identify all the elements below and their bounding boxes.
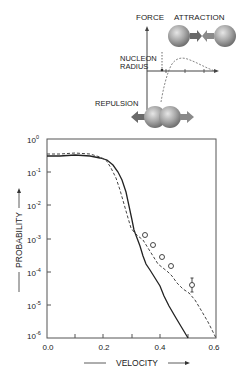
repulsion-label: REPULSION	[95, 99, 138, 108]
dashed-curve	[47, 153, 216, 338]
svg-text:0.4: 0.4	[154, 343, 166, 352]
force-label: FORCE	[136, 13, 164, 22]
figure: FORCE ATTRACTION NUCLEON RADIUS REPULSIO…	[0, 0, 247, 382]
attraction-label: ATTRACTION	[174, 13, 225, 22]
x-ticks	[75, 334, 188, 338]
x-axis-label: VELOCITY	[116, 358, 158, 368]
nucleon-sphere	[168, 25, 190, 47]
arrow-right-icon	[180, 111, 194, 123]
y-ticks	[47, 172, 51, 305]
svg-text:10-6: 10-6	[27, 330, 41, 341]
y-axis-label-group: PROBABILITY	[14, 188, 24, 292]
force-inset: FORCE ATTRACTION NUCLEON RADIUS REPULSIO…	[95, 13, 236, 128]
radius-label: RADIUS	[120, 62, 148, 71]
probability-chart: 100 10-1 10-2 10-3 10-4 10-5 10-6 0.0 0.…	[14, 134, 220, 368]
y-axis-label: PROBABILITY	[14, 212, 24, 268]
svg-text:10-5: 10-5	[27, 300, 41, 311]
arrow-right-icon	[190, 30, 202, 42]
svg-text:0.2: 0.2	[98, 343, 110, 352]
force-curve	[161, 58, 215, 102]
svg-text:100: 100	[27, 134, 39, 145]
arrow-up-icon	[17, 188, 21, 193]
distance-axis-arrow-icon	[214, 69, 219, 73]
y-tick-labels: 100 10-1 10-2 10-3 10-4 10-5 10-6	[27, 134, 41, 341]
svg-text:10-3: 10-3	[27, 234, 41, 245]
svg-text:0.6: 0.6	[208, 343, 220, 352]
arrow-left-icon	[131, 111, 145, 123]
arrow-left-icon	[202, 30, 214, 42]
data-points	[143, 233, 195, 293]
data-point	[169, 264, 174, 269]
svg-text:10-1: 10-1	[27, 167, 41, 178]
svg-text:10-2: 10-2	[27, 200, 41, 211]
x-tick-labels: 0.0 0.2 0.4 0.6	[42, 343, 220, 352]
arrow-right-icon	[185, 361, 190, 365]
data-point	[190, 283, 195, 288]
nucleon-sphere	[214, 25, 236, 47]
data-point	[160, 255, 165, 260]
data-point	[151, 243, 156, 248]
force-axis-arrow-icon	[145, 26, 149, 31]
data-point	[143, 233, 148, 238]
nucleon-sphere	[159, 106, 181, 128]
svg-text:0.0: 0.0	[42, 343, 54, 352]
plot-frame	[47, 139, 216, 338]
svg-text:10-4: 10-4	[27, 267, 41, 278]
